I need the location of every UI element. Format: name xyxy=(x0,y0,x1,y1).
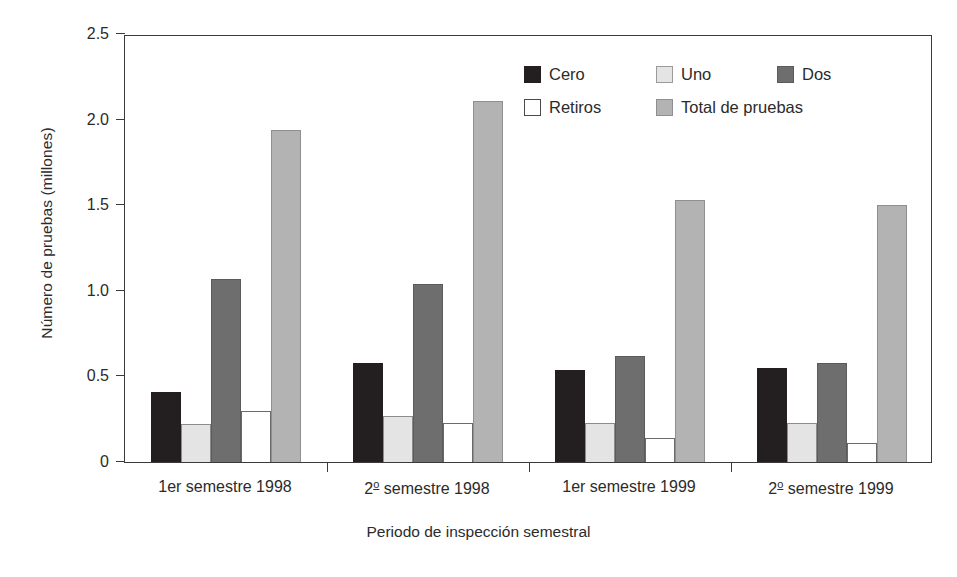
legend-label: Total de pruebas xyxy=(681,98,803,117)
legend-item-uno[interactable]: Uno xyxy=(656,65,711,84)
bar-uno[interactable] xyxy=(181,424,211,462)
bar-total-de-pruebas[interactable] xyxy=(473,101,503,462)
bar-total-de-pruebas[interactable] xyxy=(877,205,907,462)
x-axis-tick xyxy=(731,462,732,472)
legend-label: Cero xyxy=(549,65,585,84)
y-axis-tick: 0 xyxy=(116,461,125,462)
legend-item-retiros[interactable]: Retiros xyxy=(524,98,601,117)
bar-total-de-pruebas[interactable] xyxy=(675,200,705,462)
x-axis-tick-label: 1er semestre 1999 xyxy=(528,478,730,496)
x-axis-title: Periodo de inspección semestral xyxy=(0,523,957,541)
y-axis-title: Número de pruebas (millones) xyxy=(38,68,56,398)
x-axis-tick-label: 2o semestre 1999 xyxy=(730,478,932,498)
x-axis-tick xyxy=(529,462,530,472)
legend-swatch-retiros-icon xyxy=(524,99,541,116)
y-axis-tick: 2.0 xyxy=(116,119,125,120)
x-axis-tick-label: 2o semestre 1998 xyxy=(326,478,528,498)
bar-retiros[interactable] xyxy=(443,423,473,462)
y-axis-tick-label: 2.5 xyxy=(87,25,109,43)
legend-item-cero[interactable]: Cero xyxy=(524,65,585,84)
y-axis-tick: 1.0 xyxy=(116,290,125,291)
bar-uno[interactable] xyxy=(787,423,817,462)
bar-group-2-semestre-1998 xyxy=(327,36,529,462)
bar-chart-figure: Número de pruebas (millones) 00.51.01.52… xyxy=(0,0,957,577)
bar-dos[interactable] xyxy=(615,356,645,462)
legend-item-total-de-pruebas[interactable]: Total de pruebas xyxy=(656,98,803,117)
legend-label: Uno xyxy=(681,65,711,84)
bar-total-de-pruebas[interactable] xyxy=(271,130,301,462)
x-axis-tick xyxy=(327,462,328,472)
legend-row: CeroUnoDos xyxy=(524,58,904,91)
y-axis-tick-label: 0 xyxy=(100,453,109,471)
bar-uno[interactable] xyxy=(383,416,413,462)
bar-cero[interactable] xyxy=(151,392,181,462)
y-axis-tick-label: 2.0 xyxy=(87,111,109,129)
y-axis-tick-label: 1.0 xyxy=(87,282,109,300)
bar-retiros[interactable] xyxy=(847,443,877,462)
legend-swatch-dos-icon xyxy=(777,66,794,83)
bar-uno[interactable] xyxy=(585,423,615,462)
bar-dos[interactable] xyxy=(413,284,443,462)
y-axis-tick: 1.5 xyxy=(116,204,125,205)
y-axis-tick-label: 1.5 xyxy=(87,196,109,214)
legend-label: Dos xyxy=(802,65,831,84)
legend-swatch-cero-icon xyxy=(524,66,541,83)
legend-swatch-uno-icon xyxy=(656,66,673,83)
bar-cero[interactable] xyxy=(757,368,787,462)
bar-group-1er-semestre-1998 xyxy=(125,36,327,462)
bar-cero[interactable] xyxy=(555,370,585,462)
y-axis-tick: 2.5 xyxy=(116,33,125,34)
bar-dos[interactable] xyxy=(211,279,241,462)
legend-row: RetirosTotal de pruebas xyxy=(524,91,904,124)
y-axis-tick-label: 0.5 xyxy=(87,367,109,385)
legend-swatch-total-de-pruebas-icon xyxy=(656,99,673,116)
legend-item-dos[interactable]: Dos xyxy=(777,65,831,84)
bar-retiros[interactable] xyxy=(645,438,675,462)
x-axis-tick-label: 1er semestre 1998 xyxy=(124,478,326,496)
y-axis-tick: 0.5 xyxy=(116,375,125,376)
chart-legend: CeroUnoDosRetirosTotal de pruebas xyxy=(524,58,904,124)
bar-retiros[interactable] xyxy=(241,411,271,462)
bar-dos[interactable] xyxy=(817,363,847,462)
legend-label: Retiros xyxy=(549,98,601,117)
bar-cero[interactable] xyxy=(353,363,383,462)
